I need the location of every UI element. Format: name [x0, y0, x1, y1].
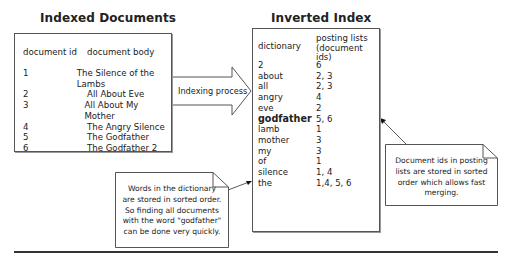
index-row: angry4 [258, 92, 376, 103]
indexed-documents-title: Indexed Documents [40, 11, 176, 25]
document-row: 5The Godfather [23, 132, 168, 143]
index-row: silence1, 4 [258, 167, 376, 178]
doc-id-header: document id [23, 47, 77, 58]
doc-body-header: document body [87, 47, 154, 58]
dictionary-sorted-note: Words in the dictionary are stored in so… [115, 172, 229, 248]
inverted-index-title: Inverted Index [271, 11, 371, 25]
inverted-index-table: 26 about2, 3 all2, 3 angry4 eve2 godfath… [258, 60, 376, 188]
index-row: of1 [258, 156, 376, 167]
index-row: all2, 3 [258, 81, 376, 92]
dictionary-header: dictionary [258, 41, 301, 52]
document-row: 4The Angry Silence [23, 122, 168, 133]
document-row: 3All About My Mother [23, 100, 168, 121]
index-row: 26 [258, 60, 376, 71]
document-row: 6The Godfather 2 [23, 143, 168, 154]
indexed-documents-box: document id document body 1The Silence o… [14, 33, 172, 152]
document-table: 1The Silence of the Lambs 2All About Eve… [23, 68, 168, 154]
document-row: 2All About Eve [23, 89, 168, 100]
index-row: my3 [258, 146, 376, 157]
index-row: the1,4, 5, 6 [258, 178, 376, 189]
index-row: about2, 3 [258, 71, 376, 82]
index-row: lamb1 [258, 124, 376, 135]
inverted-index-box: dictionary posting lists (document ids) … [252, 28, 380, 232]
index-row: eve2 [258, 103, 376, 114]
posting-lists-header: posting lists (document ids) [316, 34, 379, 63]
index-row: mother3 [258, 135, 376, 146]
index-row-highlighted: godfather5, 6 [258, 114, 376, 125]
postings-sorted-note: Document ids in posting lists are stored… [385, 144, 498, 206]
indexing-process-label: Indexing process [178, 86, 247, 97]
document-row: 1The Silence of the Lambs [23, 68, 168, 89]
